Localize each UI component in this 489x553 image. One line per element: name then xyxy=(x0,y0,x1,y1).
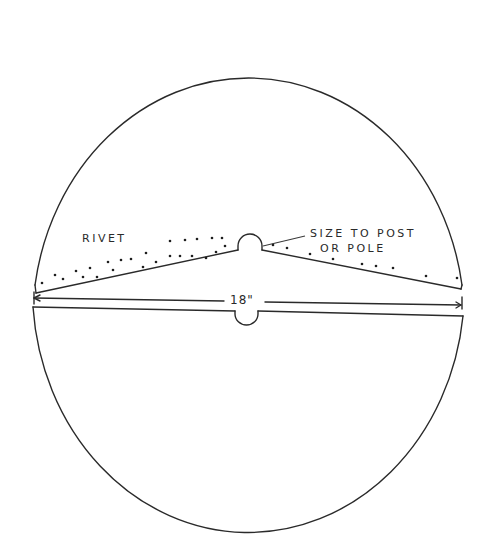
rivet-dot xyxy=(215,251,218,254)
rivet-dot xyxy=(82,276,85,279)
rivet-dot xyxy=(62,278,65,281)
rivet-dot xyxy=(169,240,172,243)
rivet-dot xyxy=(54,274,57,277)
rivet-dot xyxy=(96,276,99,279)
lower-top-edge-right xyxy=(258,311,463,316)
rivet-dot xyxy=(286,247,289,250)
rivet-dot xyxy=(112,269,115,272)
rivet-dot xyxy=(196,238,199,241)
lower-post-notch xyxy=(235,311,258,325)
rivet-label: RIVET xyxy=(82,233,127,244)
rivet-dot xyxy=(211,237,214,240)
rivet-dot xyxy=(184,239,187,242)
dimension-line-left xyxy=(34,298,224,301)
rivet-dot xyxy=(205,257,208,260)
rivet-dots-left xyxy=(41,237,227,285)
rivet-dot xyxy=(75,270,78,273)
dimension-label: 18" xyxy=(228,294,256,306)
rivet-dot xyxy=(155,261,158,264)
rivet-dot xyxy=(272,244,275,247)
size-label-line2: OR POLE xyxy=(320,243,386,254)
upper-half-outline xyxy=(35,78,462,285)
rivet-dot xyxy=(41,282,44,285)
rivet-dot xyxy=(309,253,312,256)
rivet-dot xyxy=(392,267,395,270)
rivet-dot xyxy=(130,258,133,261)
rivet-dot xyxy=(179,255,182,258)
rivet-dot xyxy=(145,252,148,255)
rivet-dot xyxy=(224,245,227,248)
diagram-canvas: RIVET SIZE TO POST OR POLE 18" xyxy=(0,0,489,553)
upper-post-notch xyxy=(238,234,262,250)
rivet-dot xyxy=(89,267,92,270)
upper-left-edge xyxy=(35,285,36,293)
rivet-dot xyxy=(142,266,145,269)
rivet-dot xyxy=(221,237,224,240)
left-wedge-edge xyxy=(36,250,238,293)
rivet-dot xyxy=(191,255,194,258)
right-wedge-edge xyxy=(262,250,461,289)
rivet-dot xyxy=(361,263,364,266)
rivet-dot xyxy=(425,275,428,278)
leader-line xyxy=(263,236,305,246)
rivet-dot xyxy=(120,259,123,262)
rivet-dot xyxy=(375,265,378,268)
rivet-dot xyxy=(107,261,110,264)
rivet-dot xyxy=(456,277,459,280)
lower-top-edge-left xyxy=(33,307,235,311)
rivet-dot xyxy=(169,255,172,258)
dimension-line-right xyxy=(265,302,461,305)
pattern-drawing xyxy=(0,0,489,553)
rivet-dot xyxy=(332,258,335,261)
lower-half-outline xyxy=(33,307,463,532)
size-label-line1: SIZE TO POST xyxy=(310,228,416,239)
